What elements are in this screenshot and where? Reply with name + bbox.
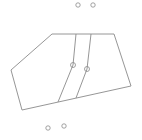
inner-line-right <box>76 34 91 98</box>
circle-markers <box>46 3 95 130</box>
outer-polygon <box>11 34 131 110</box>
top-right-circle-icon <box>91 3 95 7</box>
diagram-svg <box>0 0 142 140</box>
inner-line-left <box>58 34 76 102</box>
bottom-left-circle-icon <box>46 126 50 130</box>
top-left-circle-icon <box>76 3 80 7</box>
bottom-right-circle-icon <box>62 124 66 128</box>
diagram-canvas <box>0 0 142 140</box>
